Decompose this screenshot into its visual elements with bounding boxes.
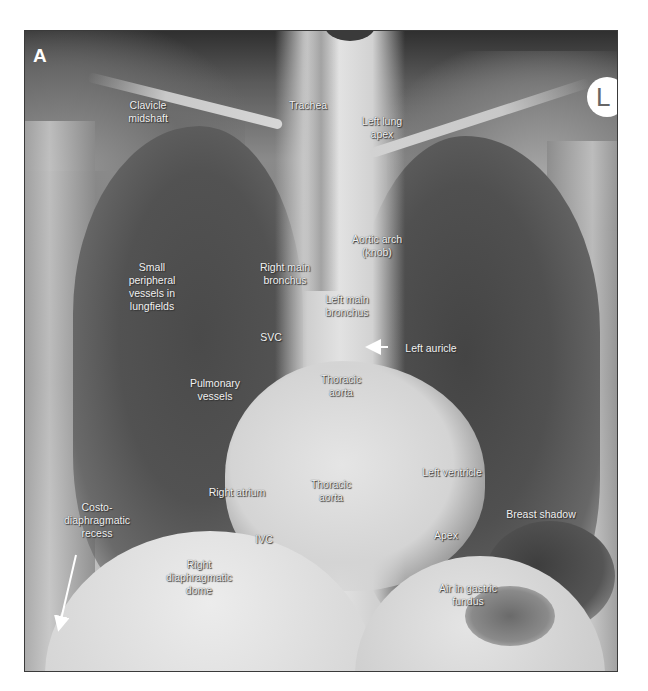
trachea-shadow — [303, 31, 339, 291]
neck-shadow — [325, 30, 375, 41]
left-chest-wall — [547, 141, 617, 672]
right-chest-wall — [25, 121, 95, 672]
label-pulmonary-vessels: Pulmonary vessels — [190, 377, 240, 403]
panel-letter: A — [33, 45, 47, 67]
label-left-lung-apex: Left lung apex — [362, 115, 402, 141]
label-ivc: IVC — [255, 533, 273, 546]
label-air-in-gastric-fundus: Air in gastric fundus — [439, 582, 497, 608]
side-marker: L — [587, 77, 618, 117]
label-costo-diaphragmatic-recess: Costo- diaphragmatic recess — [64, 501, 130, 540]
label-trachea: Trachea — [289, 99, 327, 112]
label-small-peripheral-vessels: Small peripheral vessels in lungfields — [129, 261, 176, 313]
left-diaphragm — [355, 556, 605, 672]
breast-shadow-region — [485, 521, 615, 631]
label-breast-shadow: Breast shadow — [506, 508, 575, 521]
label-left-ventricle: Left ventricle — [422, 466, 482, 479]
right-clavicle — [87, 72, 283, 130]
left-shoulder-shadow — [387, 51, 618, 231]
chest-xray-figure: A L Clavicle midshaft Trachea Left lung … — [24, 30, 618, 672]
label-left-main-bronchus: Left main bronchus — [325, 293, 368, 319]
costo-recess-arrow-icon — [60, 555, 76, 624]
right-diaphragm — [45, 531, 375, 672]
label-clavicle-midshaft: Clavicle midshaft — [128, 99, 168, 125]
label-thoracic-aorta-upper: Thoracic aorta — [321, 373, 361, 399]
label-right-atrium: Right atrium — [209, 486, 266, 499]
label-apex: Apex — [434, 529, 458, 542]
label-right-diaphragmatic-dome: Right diaphragmatic dome — [166, 558, 232, 597]
xray-background — [25, 31, 617, 671]
label-aortic-arch: Aortic arch (knob) — [352, 233, 402, 259]
label-thoracic-aorta-lower: Thoracic aorta — [311, 478, 351, 504]
label-right-main-bronchus: Right main bronchus — [260, 261, 310, 287]
label-svc: SVC — [260, 331, 282, 344]
left-lung-field — [355, 136, 600, 626]
label-left-auricle: Left auricle — [405, 342, 456, 355]
left-clavicle — [369, 78, 591, 159]
annotation-arrows — [25, 31, 617, 671]
